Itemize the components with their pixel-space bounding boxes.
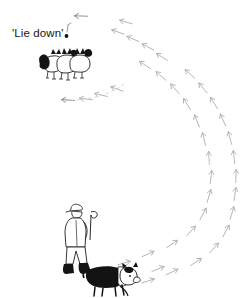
border-collie-dog	[83, 262, 140, 296]
sheep-flock	[39, 48, 92, 80]
right-hand-outrun-path	[141, 68, 239, 286]
diagram-canvas: 'Lie down'	[0, 0, 249, 298]
lie-down-marker-dot	[65, 23, 71, 38]
left-hand-outrun-path	[106, 18, 214, 289]
approach-to-sheep-path	[61, 84, 124, 103]
top-leftward-arrow	[74, 13, 87, 18]
shepherd	[63, 204, 97, 274]
sheepdog-outrun-illustration	[0, 0, 249, 298]
